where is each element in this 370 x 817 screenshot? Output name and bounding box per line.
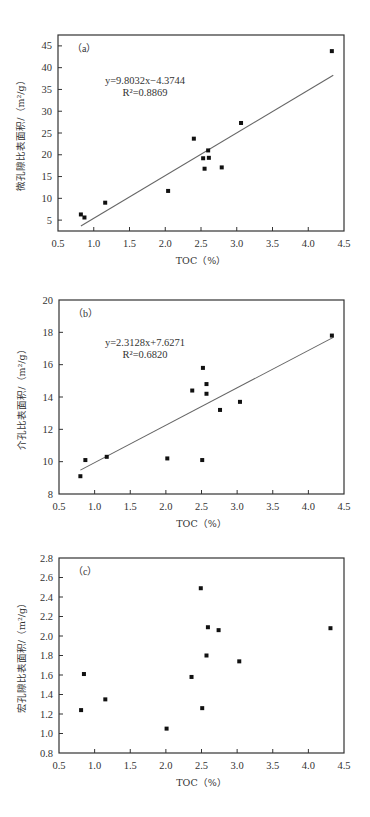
y-tick-label-a: 25 <box>42 128 53 139</box>
x-tick-label-a: 3.0 <box>230 238 243 249</box>
data-point-c <box>190 675 194 679</box>
x-tick-label-c: 2.0 <box>159 760 172 771</box>
x-tick-label-b: 4.5 <box>337 501 350 512</box>
y-tick-label-b: 20 <box>43 295 54 306</box>
x-tick-label-c: 2.5 <box>195 760 208 771</box>
data-point-b <box>200 458 204 462</box>
x-tick-label-c: 4.5 <box>337 760 350 771</box>
y-tick-label-c: 2.2 <box>40 611 53 622</box>
x-tick-label-a: 0.5 <box>51 238 64 249</box>
y-tick-label-a: 15 <box>42 171 53 182</box>
x-tick-label-b: 4.0 <box>302 501 315 512</box>
regression-equation-b: y=2.3128x+7.6271 <box>105 337 185 348</box>
x-tick-label-c: 3.0 <box>231 760 244 771</box>
panel-label-a: （a） <box>72 43 96 54</box>
x-axis-title-b: TOC（%） <box>176 518 226 529</box>
y-axis-title-c: 宏孔隙比表面积/（m²/g） <box>16 598 27 713</box>
data-point-a <box>207 156 211 160</box>
x-tick-label-b: 2.5 <box>195 501 208 512</box>
data-point-a <box>201 156 205 160</box>
x-axis-title-a: TOC（%） <box>176 255 226 266</box>
y-tick-label-c: 2.8 <box>40 553 53 564</box>
y-tick-label-b: 8 <box>48 489 53 500</box>
scatter-charts-svg: 0.51.01.52.02.53.03.54.04.55101520253035… <box>0 0 370 817</box>
data-point-c <box>237 659 241 663</box>
data-point-c <box>217 628 221 632</box>
x-tick-label-a: 1.5 <box>123 238 136 249</box>
y-tick-label-b: 12 <box>43 424 54 435</box>
r-squared-a: R²=0.8869 <box>123 87 168 98</box>
x-tick-label-c: 0.5 <box>52 760 65 771</box>
x-tick-label-a: 1.0 <box>87 238 100 249</box>
data-point-b <box>218 408 222 412</box>
data-point-b <box>201 366 205 370</box>
y-tick-label-c: 1.6 <box>40 670 53 681</box>
plot-frame-a <box>58 35 344 231</box>
data-point-a <box>220 165 224 169</box>
data-point-a <box>166 189 170 193</box>
data-point-a <box>192 137 196 141</box>
regression-equation-a: y=9.8032x−4.3744 <box>105 75 186 86</box>
regression-line-b <box>80 337 333 470</box>
y-tick-label-a: 5 <box>47 215 52 226</box>
y-tick-label-b: 16 <box>43 359 54 370</box>
x-tick-label-b: 1.0 <box>88 501 101 512</box>
r-squared-b: R²=0.6820 <box>123 349 168 360</box>
y-tick-label-a: 45 <box>42 40 53 51</box>
x-axis-title-c: TOC（%） <box>176 777 226 788</box>
data-point-b <box>238 400 242 404</box>
y-tick-label-c: 2.4 <box>40 592 54 603</box>
x-tick-label-b: 3.0 <box>231 501 244 512</box>
data-point-b <box>78 474 82 478</box>
x-tick-label-a: 4.5 <box>337 238 350 249</box>
x-tick-label-b: 0.5 <box>52 501 65 512</box>
panel-label-c: （c） <box>73 566 97 577</box>
y-axis-title-b: 介孔比表面积/（m²/g） <box>16 344 27 449</box>
x-tick-label-a: 2.0 <box>159 238 172 249</box>
y-tick-label-c: 2.0 <box>40 631 53 642</box>
data-point-a <box>239 121 243 125</box>
data-point-b <box>105 455 109 459</box>
data-point-b <box>83 458 87 462</box>
data-point-b <box>204 382 208 386</box>
x-tick-label-c: 1.5 <box>124 760 137 771</box>
y-tick-label-c: 0.8 <box>40 748 53 759</box>
y-tick-label-c: 1.0 <box>40 728 53 739</box>
data-point-b <box>190 389 194 393</box>
data-point-a <box>206 148 210 152</box>
x-tick-label-c: 1.0 <box>88 760 101 771</box>
x-tick-label-c: 4.0 <box>302 760 315 771</box>
data-point-a <box>79 212 83 216</box>
data-point-a <box>103 201 107 205</box>
data-point-c <box>82 672 86 676</box>
x-tick-label-a: 3.5 <box>266 238 279 249</box>
y-tick-label-c: 2.6 <box>40 572 53 583</box>
y-tick-label-a: 40 <box>42 62 53 73</box>
x-tick-label-a: 2.5 <box>194 238 207 249</box>
data-point-c <box>206 625 210 629</box>
y-tick-label-a: 10 <box>42 193 53 204</box>
data-point-c <box>199 586 203 590</box>
y-tick-label-c: 1.8 <box>40 650 53 661</box>
data-point-a <box>203 167 207 171</box>
y-tick-label-b: 10 <box>43 456 54 467</box>
data-point-b <box>165 456 169 460</box>
y-tick-label-c: 1.4 <box>40 689 54 700</box>
data-point-b <box>330 334 334 338</box>
data-point-c <box>165 727 169 731</box>
y-tick-label-b: 18 <box>43 327 54 338</box>
data-point-b <box>204 392 208 396</box>
x-tick-label-b: 1.5 <box>124 501 137 512</box>
y-tick-label-a: 20 <box>42 149 53 160</box>
data-point-a <box>82 215 86 219</box>
y-tick-label-b: 14 <box>43 392 54 403</box>
panel-label-b: （b） <box>73 308 98 319</box>
y-tick-label-a: 35 <box>42 84 53 95</box>
data-point-c <box>79 708 83 712</box>
data-point-c <box>103 697 107 701</box>
y-tick-label-c: 1.2 <box>40 709 53 720</box>
x-tick-label-a: 4.0 <box>302 238 315 249</box>
plot-frame-b <box>59 300 344 494</box>
y-axis-title-a: 微孔隙比表面积/（m²/g） <box>15 75 26 190</box>
x-tick-label-b: 3.5 <box>266 501 279 512</box>
